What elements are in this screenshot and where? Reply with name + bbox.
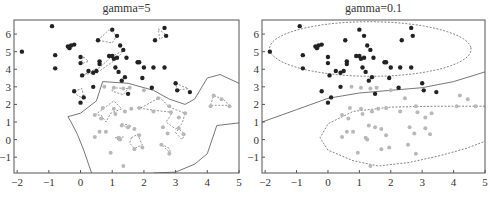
y-tick-label: 5 (254, 46, 260, 58)
light-point (361, 112, 365, 116)
dark-point (327, 73, 331, 77)
x-tick-label: −1 (43, 176, 55, 188)
light-point (379, 127, 383, 131)
dark-point (118, 43, 122, 47)
dark-point (123, 75, 127, 79)
dark-point (72, 89, 76, 93)
y-tick-label: 4 (254, 63, 260, 75)
light-point (140, 146, 144, 150)
light-point (121, 87, 125, 91)
dark-point (373, 92, 377, 96)
dark-point (126, 92, 130, 96)
light-point (121, 164, 125, 168)
dark-point (389, 65, 393, 69)
light-point (183, 111, 187, 115)
light-point (112, 107, 116, 111)
dark-point (341, 69, 345, 73)
light-point (414, 152, 418, 156)
dark-point (150, 86, 154, 90)
x-tick-label: −2 (11, 176, 23, 188)
light-point (151, 109, 155, 113)
light-point (123, 109, 127, 113)
light-point (406, 143, 410, 147)
y-tick-label: 0 (6, 134, 12, 146)
x-tick-label: −2 (259, 176, 271, 188)
dark-point (80, 73, 84, 77)
light-point (167, 104, 171, 108)
dark-point (365, 43, 369, 47)
dark-point (78, 61, 82, 65)
dark-point (96, 38, 100, 42)
light-point (137, 133, 141, 137)
light-point (375, 86, 379, 90)
dark-point (120, 78, 124, 82)
dark-point (110, 27, 114, 31)
light-point (430, 111, 434, 115)
dark-point (268, 49, 272, 53)
light-point (376, 107, 380, 111)
light-point (384, 106, 388, 110)
dark-point (409, 65, 413, 69)
dark-point (53, 66, 57, 70)
dark-point (370, 75, 374, 79)
light-point (368, 87, 372, 91)
light-point (112, 86, 116, 90)
x-tick-label: 0 (78, 176, 84, 188)
light-point (340, 135, 344, 139)
light-point (415, 110, 419, 114)
plot-panel-1: −2−1012345−10123456 (0, 20, 242, 188)
dark-point (78, 55, 82, 59)
light-point (212, 94, 216, 98)
dark-point (319, 42, 323, 46)
dark-point (115, 56, 119, 60)
y-tick-label: 2 (6, 98, 12, 110)
y-tick-label: 5 (6, 46, 12, 58)
y-tick-label: 4 (6, 63, 12, 75)
dark-point (173, 81, 177, 85)
light-point (414, 104, 418, 108)
light-point (379, 147, 383, 151)
figure: gamma=5 gamma=0.1 −2−1012345−10123456−2−… (0, 0, 490, 197)
dark-point (396, 86, 400, 90)
dark-point (72, 42, 76, 46)
dark-point (334, 69, 338, 73)
x-tick-label: 1 (109, 176, 115, 188)
dark-point (326, 61, 330, 65)
dark-point (363, 70, 367, 74)
light-point (455, 104, 459, 108)
dark-point (398, 65, 402, 69)
light-point (423, 116, 427, 120)
light-point (220, 97, 224, 101)
light-point (99, 116, 103, 120)
light-point (104, 130, 108, 134)
light-point (458, 94, 462, 98)
dark-point (371, 56, 375, 60)
dark-point (20, 49, 24, 53)
light-point (412, 131, 416, 135)
dark-point (362, 56, 366, 60)
light-point (208, 104, 212, 108)
dark-point (78, 100, 82, 104)
dark-point (140, 76, 144, 80)
light-point (118, 138, 122, 142)
light-point (137, 106, 141, 110)
light-point (384, 133, 388, 137)
light-point (109, 151, 113, 155)
light-point (345, 130, 349, 134)
light-point (161, 125, 165, 129)
dark-point (329, 95, 333, 99)
dark-point (301, 53, 305, 57)
axes-frame (262, 20, 485, 173)
dark-point (409, 26, 413, 30)
light-point (348, 106, 352, 110)
dark-point (137, 60, 141, 64)
dark-point (175, 88, 179, 92)
x-tick-label: −1 (291, 176, 303, 188)
light-point (142, 88, 146, 92)
light-point (227, 104, 231, 108)
light-point (387, 146, 391, 150)
dark-point (368, 48, 372, 52)
dark-point (91, 85, 95, 89)
x-tick-label: 4 (451, 176, 457, 188)
light-point (398, 109, 402, 113)
